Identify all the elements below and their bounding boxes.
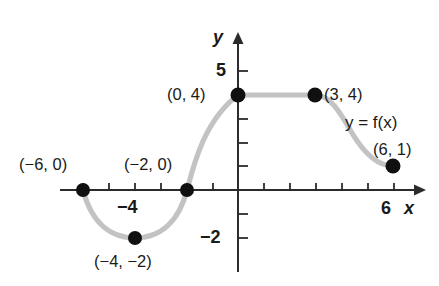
data-point-3-4 (308, 88, 323, 103)
data-point-neg2-0 (180, 183, 194, 197)
point-label-0-4: (0, 4) (167, 86, 206, 103)
x-axis-arrowhead (414, 185, 426, 196)
data-point-6-1 (386, 159, 401, 174)
x-axis-label: x (404, 199, 414, 217)
x-axis-group (60, 183, 426, 196)
y-axis-group (233, 32, 249, 272)
y-axis-label: y (213, 28, 223, 46)
point-label-6-1: (6, 1) (373, 141, 412, 158)
point-label-neg2-0: (−2, 0) (124, 156, 172, 173)
data-point-neg6-0 (76, 183, 90, 197)
data-point-neg4-neg2 (128, 231, 142, 245)
x-tick-label-6: 6 (381, 199, 391, 217)
point-label-neg4-neg2: (−4, −2) (94, 253, 152, 270)
y-tick-label-minus-2: −2 (200, 228, 221, 246)
point-label-neg6-0: (−6, 0) (19, 156, 67, 173)
function-label: y = f(x) (345, 114, 397, 131)
y-tick-label-5: 5 (216, 61, 226, 79)
point-label-3-4: (3, 4) (324, 86, 363, 103)
graph-figure: y x 5 −2 −4 6 (−6, 0) (−2, 0) (−4, −2) (… (0, 0, 439, 286)
y-axis-arrowhead (233, 32, 244, 44)
data-point-0-4 (231, 88, 246, 103)
x-tick-label-minus-4: −4 (117, 198, 138, 216)
